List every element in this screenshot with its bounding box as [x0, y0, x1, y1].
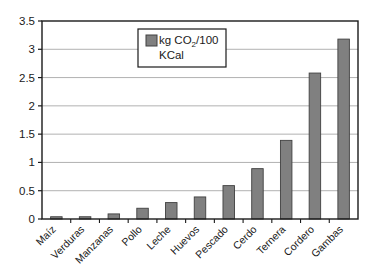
y-tick-label: 3 [29, 43, 35, 55]
y-tick-label: 0.5 [19, 185, 35, 197]
bar [252, 169, 263, 219]
bar [338, 39, 349, 219]
y-tick-label: 3.5 [19, 15, 35, 27]
chart-canvas: 00.511.522.533.5 MaízVerdurasManzanasPol… [0, 0, 378, 276]
bar [137, 208, 148, 219]
legend-swatch [146, 35, 157, 46]
y-tick-label: 0 [29, 213, 35, 225]
bar [166, 203, 177, 219]
bar [309, 73, 320, 219]
y-tick-label: 1.5 [19, 128, 35, 140]
legend-label-line2: KCal [159, 49, 184, 61]
y-tick-label: 2.5 [19, 72, 35, 84]
bar [194, 197, 205, 219]
y-tick-label: 1 [29, 156, 35, 168]
bar [108, 214, 119, 219]
legend: kg CO2/100 KCal [138, 29, 226, 67]
bar [280, 140, 291, 219]
bar-chart: 00.511.522.533.5 MaízVerdurasManzanasPol… [0, 0, 378, 276]
y-tick-label: 2 [29, 100, 35, 112]
bar [223, 186, 234, 219]
